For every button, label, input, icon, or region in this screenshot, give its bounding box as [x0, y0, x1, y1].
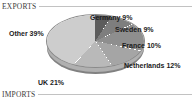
slice-label-netherlands: Netherlands 12%	[124, 61, 180, 70]
slice-label-other: Other 39%	[9, 29, 44, 38]
section-title-imports: IMPORTS	[0, 90, 35, 99]
section-rule-imports	[38, 94, 192, 95]
slice-label-germany: Germany 9%	[90, 13, 132, 22]
section-header-imports: IMPORTS	[0, 89, 194, 100]
pie-chart: Germany 9% Sweden 9% France 10% Netherla…	[0, 11, 194, 89]
slice-label-sweden: Sweden 9%	[115, 25, 154, 34]
slice-label-uk: UK 21%	[38, 78, 64, 87]
slice-label-france: France 10%	[122, 41, 161, 50]
section-rule-exports	[39, 6, 192, 7]
section-title-exports: EXPORTS	[0, 2, 36, 11]
exports-pie-chart-figure: EXPORTS Germany 9% Sweden 9% France 10% …	[0, 0, 194, 101]
